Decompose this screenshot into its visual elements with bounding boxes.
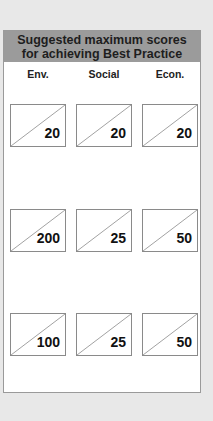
column-headers: Env. Social Econ. [4,68,200,82]
score-box-env-1: 20 [10,104,66,147]
score-box-env-2: 200 [10,209,66,252]
header-line-1: Suggested maximum scores [4,33,200,47]
score-box-social-2: 25 [76,209,132,252]
score-value: 20 [176,125,192,141]
score-value: 20 [110,125,126,141]
score-value: 50 [176,230,192,246]
score-value: 100 [37,334,60,350]
score-value: 25 [110,230,126,246]
column-social: Social [76,68,132,80]
panel-header: Suggested maximum scores for achieving B… [4,31,200,62]
header-line-2: for achieving Best Practice [4,47,200,61]
score-value: 20 [44,125,60,141]
score-box-econ-2: 50 [142,209,198,252]
score-box-social-3: 25 [76,313,132,356]
score-value: 200 [37,230,60,246]
score-box-econ-1: 20 [142,104,198,147]
score-value: 25 [110,334,126,350]
score-box-social-1: 20 [76,104,132,147]
column-econ: Econ. [142,68,198,80]
score-value: 50 [176,334,192,350]
column-env: Env. [10,68,66,80]
score-box-env-3: 100 [10,313,66,356]
score-box-econ-3: 50 [142,313,198,356]
scores-panel: Suggested maximum scores for achieving B… [3,30,201,393]
